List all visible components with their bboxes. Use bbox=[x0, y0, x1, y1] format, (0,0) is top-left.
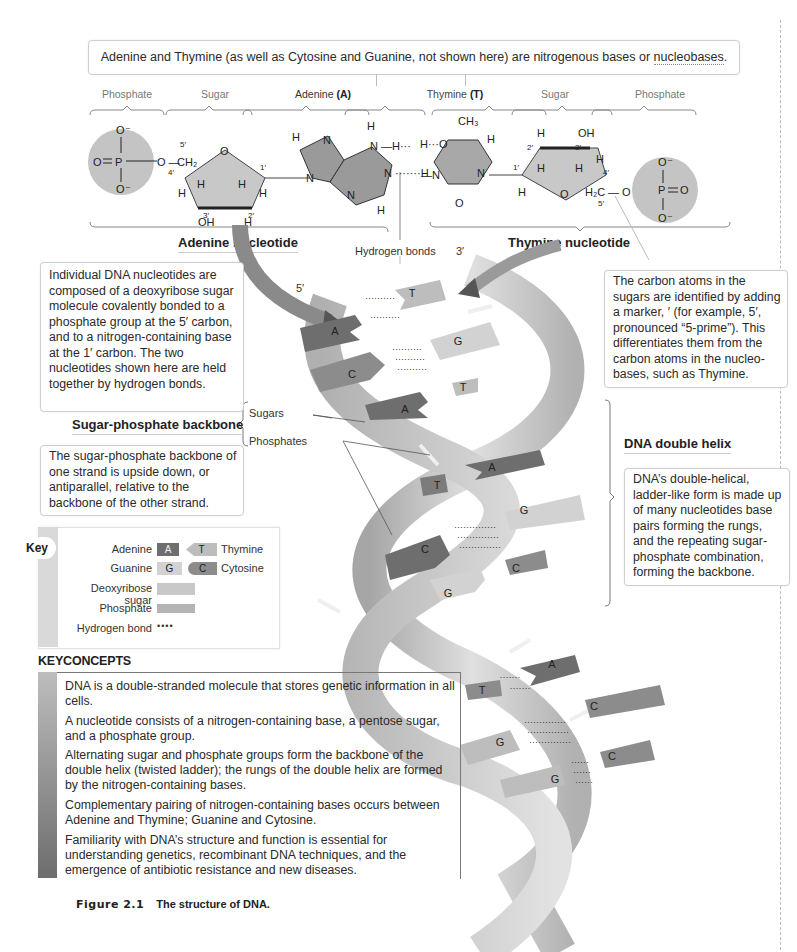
key-swatch-phosphate bbox=[157, 604, 195, 613]
key-concepts-title: KEYCONCEPTS bbox=[38, 654, 131, 668]
figure-caption: Figure 2.1The structure of DNA. bbox=[76, 898, 270, 911]
nucleotide-composition-callout: Individual DNA nucleotides are composed … bbox=[40, 262, 244, 412]
key-chip-guanine: G bbox=[157, 562, 182, 575]
svg-text:G: G bbox=[454, 335, 463, 347]
svg-text:······: ······ bbox=[571, 757, 589, 767]
key-concept-item: DNA is a double-stranded molecule that s… bbox=[65, 679, 455, 709]
svg-text:··········: ·········· bbox=[395, 354, 425, 364]
key-concept-item: Familiarity with DNA’s structure and fun… bbox=[65, 833, 455, 878]
svg-text:··············: ·············· bbox=[459, 542, 501, 552]
svg-text:C: C bbox=[512, 562, 520, 574]
svg-text:T: T bbox=[434, 479, 441, 491]
antiparallel-backbone-text: The sugar-phosphate backbone of one stra… bbox=[49, 449, 236, 510]
key-label-guanine: Guanine bbox=[100, 562, 152, 574]
svg-text:·······: ······· bbox=[510, 683, 531, 693]
svg-text:G: G bbox=[496, 736, 505, 748]
double-helix-text: DNA’s double-helical, ladder-like form i… bbox=[633, 472, 781, 579]
svg-text:A: A bbox=[331, 325, 339, 337]
dna-double-helix-title: DNA double helix bbox=[624, 436, 731, 454]
key-chip-cytosine: C bbox=[188, 562, 217, 575]
key-title: Key bbox=[22, 537, 56, 559]
svg-text:······: ······ bbox=[573, 767, 591, 777]
key-symbol-hydrogen-bond: •••• bbox=[157, 621, 174, 631]
key-swatch-sugar bbox=[157, 583, 195, 595]
carbon-atoms-text: The carbon atoms in the sugars are ident… bbox=[613, 274, 781, 381]
sugars-label: Sugars bbox=[249, 407, 284, 419]
svg-text:C: C bbox=[348, 368, 356, 380]
svg-text:T: T bbox=[409, 287, 416, 299]
svg-text:G: G bbox=[444, 587, 453, 599]
svg-text:··············: ·············· bbox=[454, 522, 496, 532]
key-concept-item: A nucleotide consists of a nitrogen-cont… bbox=[65, 714, 455, 744]
svg-text:T: T bbox=[479, 684, 486, 696]
phosphates-label: Phosphates bbox=[249, 435, 307, 447]
key-concept-item: Complementary pairing of nitrogen-contai… bbox=[65, 798, 455, 828]
key-concepts-strip bbox=[38, 672, 57, 878]
carbon-atoms-callout: The carbon atoms in the sugars are ident… bbox=[604, 270, 788, 388]
key-concept-item: Alternating sugar and phosphate groups f… bbox=[65, 748, 455, 793]
key-label-cytosine: Cytosine bbox=[221, 562, 264, 574]
double-helix-callout: DNA’s double-helical, ladder-like form i… bbox=[624, 468, 790, 586]
svg-text:G: G bbox=[551, 773, 560, 785]
svg-text:··········: ·········· bbox=[392, 344, 422, 354]
svg-text:C: C bbox=[608, 750, 616, 762]
svg-text:··············: ·············· bbox=[457, 532, 499, 542]
key-label-hydrogen-bond: Hydrogen bond bbox=[70, 622, 152, 634]
figure-caption-text: The structure of DNA. bbox=[156, 898, 270, 910]
svg-text:··············: ·············· bbox=[527, 727, 569, 737]
svg-text:C: C bbox=[421, 543, 429, 555]
svg-text:······: ······ bbox=[575, 777, 593, 787]
svg-text:·······: ······· bbox=[500, 672, 521, 682]
svg-text:··········: ·········· bbox=[397, 364, 427, 374]
svg-text:G: G bbox=[520, 504, 529, 516]
antiparallel-backbone-callout: The sugar-phosphate backbone of one stra… bbox=[40, 445, 244, 516]
svg-text:T: T bbox=[460, 381, 467, 393]
svg-text:··············: ·············· bbox=[529, 737, 571, 747]
svg-text:··············: ·············· bbox=[524, 717, 566, 727]
svg-text:··········: ·········· bbox=[365, 293, 395, 303]
sugar-phosphate-backbone-title: Sugar-phosphate backbone bbox=[72, 417, 243, 435]
key-label-adenine: Adenine bbox=[110, 543, 152, 555]
figure-number: Figure 2.1 bbox=[76, 898, 144, 911]
key-label-thymine: Thymine bbox=[221, 543, 263, 555]
nucleotide-composition-text: Individual DNA nucleotides are composed … bbox=[49, 268, 234, 391]
key-label-phosphate: Phosphate bbox=[90, 602, 152, 614]
svg-text:A: A bbox=[401, 403, 409, 415]
svg-text:··········: ·········· bbox=[370, 312, 400, 322]
svg-text:C: C bbox=[590, 700, 598, 712]
key-chip-adenine: A bbox=[157, 543, 179, 556]
svg-text:A: A bbox=[488, 461, 496, 473]
svg-text:A: A bbox=[548, 658, 556, 670]
